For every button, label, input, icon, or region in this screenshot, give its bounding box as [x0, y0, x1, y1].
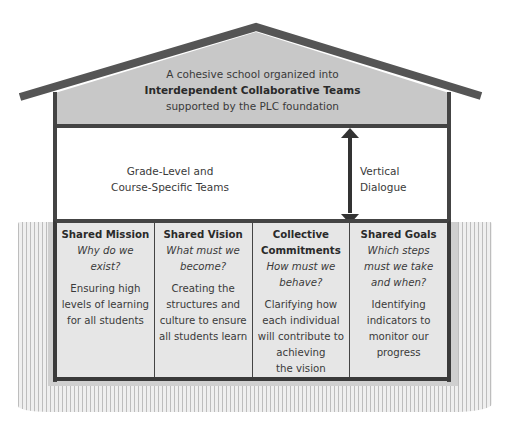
pillar-description: structures and — [155, 297, 252, 313]
vertical-dialogue-label: Vertical Dialogue — [360, 163, 407, 195]
pillar-shared-mission: Shared Mission Why do we exist? Ensuring… — [57, 223, 155, 377]
pillar-description: Creating the — [155, 281, 252, 297]
pillar-question: behave? — [253, 275, 350, 291]
pillar-question: What must we — [155, 243, 252, 259]
pillar-title: Commitments — [253, 243, 350, 259]
roof-line-1: A cohesive school organized into — [60, 66, 445, 82]
pillar-question: exist? — [57, 259, 154, 275]
pillar-description: all students learn — [155, 329, 252, 345]
pillar-title: Shared Vision — [155, 227, 252, 243]
pillar-title: Collective — [253, 227, 350, 243]
pillar-description: Ensuring high — [57, 281, 154, 297]
pillar-description: Identifying — [350, 297, 447, 313]
roof-caption: A cohesive school organized into Interde… — [60, 66, 445, 114]
pillar-question: and when? — [350, 275, 447, 291]
pillar-question: become? — [155, 259, 252, 275]
pillar-description: each individual — [253, 313, 350, 329]
dialogue-line-1: Vertical — [360, 163, 407, 179]
pillar-description: progress — [350, 345, 447, 361]
pillar-description: achieving — [253, 345, 350, 361]
teams-line-2: Course-Specific Teams — [80, 179, 260, 195]
pillar-description: culture to ensure — [155, 313, 252, 329]
roof-beam — [53, 124, 451, 128]
pillar-description: indicators to — [350, 313, 447, 329]
pillars-row: Shared Mission Why do we exist? Ensuring… — [53, 219, 451, 381]
grade-level-teams-label: Grade-Level and Course-Specific Teams — [80, 163, 260, 195]
pillar-collective-commitments: Collective Commitments How must we behav… — [253, 223, 351, 377]
pillar-shared-goals: Shared Goals Which steps must we take an… — [350, 223, 447, 377]
double-arrow-icon — [340, 128, 360, 224]
pillar-title: Shared Goals — [350, 227, 447, 243]
roof-line-2: Interdependent Collaborative Teams — [60, 82, 445, 98]
pillar-title: Shared Mission — [57, 227, 154, 243]
dialogue-line-2: Dialogue — [360, 179, 407, 195]
roof-line-3: supported by the PLC foundation — [60, 98, 445, 114]
pillar-question: must we take — [350, 259, 447, 275]
pillar-description: will contribute to — [253, 329, 350, 345]
pillar-question: Why do we — [57, 243, 154, 259]
pillar-description: Clarifying how — [253, 297, 350, 313]
pillar-question: How must we — [253, 259, 350, 275]
teams-line-1: Grade-Level and — [80, 163, 260, 179]
pillar-description: the vision — [253, 361, 350, 377]
pillar-description: levels of learning — [57, 297, 154, 313]
pillar-description: monitor our — [350, 329, 447, 345]
pillar-question: Which steps — [350, 243, 447, 259]
pillar-description: for all students — [57, 313, 154, 329]
pillar-shared-vision: Shared Vision What must we become? Creat… — [155, 223, 253, 377]
